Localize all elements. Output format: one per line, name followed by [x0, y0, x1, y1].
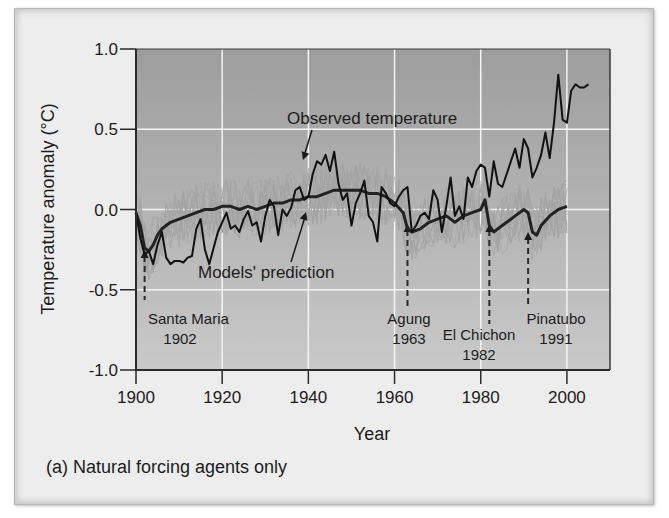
observed-temperature-label: Observed temperature	[287, 109, 457, 128]
x-tick-label: 1980	[462, 388, 500, 407]
y-tick-label: -1.0	[89, 361, 118, 380]
volcano-year-label: 1963	[392, 330, 425, 347]
x-tick-label: 1900	[117, 388, 155, 407]
volcano-year-label: 1982	[462, 346, 495, 363]
y-tick-label: 0.5	[94, 120, 118, 139]
volcano-name-label: Agung	[387, 310, 430, 327]
volcano-year-label: 1902	[163, 330, 196, 347]
y-tick-label: -0.5	[89, 281, 118, 300]
y-tick-label: 1.0	[94, 40, 118, 59]
volcano-name-label: Pinatubo	[526, 310, 585, 327]
volcano-name-label: El Chichon	[443, 326, 516, 343]
x-tick-label: 1920	[203, 388, 241, 407]
y-tick-label: 0.0	[94, 201, 118, 220]
models-prediction-label: Models' prediction	[198, 263, 334, 282]
x-tick-label: 1940	[289, 388, 327, 407]
chart: 1.00.50.0-0.5-1.019001920194019601980200…	[0, 0, 669, 518]
x-tick-label: 1960	[376, 388, 414, 407]
figure-caption: (a) Natural forcing agents only	[46, 457, 287, 478]
x-tick-label: 2000	[548, 388, 586, 407]
volcano-year-label: 1991	[539, 330, 572, 347]
y-axis-label: Temperature anomaly (°C)	[38, 103, 59, 314]
x-axis-label: Year	[354, 424, 390, 445]
volcano-name-label: Santa Maria	[148, 310, 230, 327]
